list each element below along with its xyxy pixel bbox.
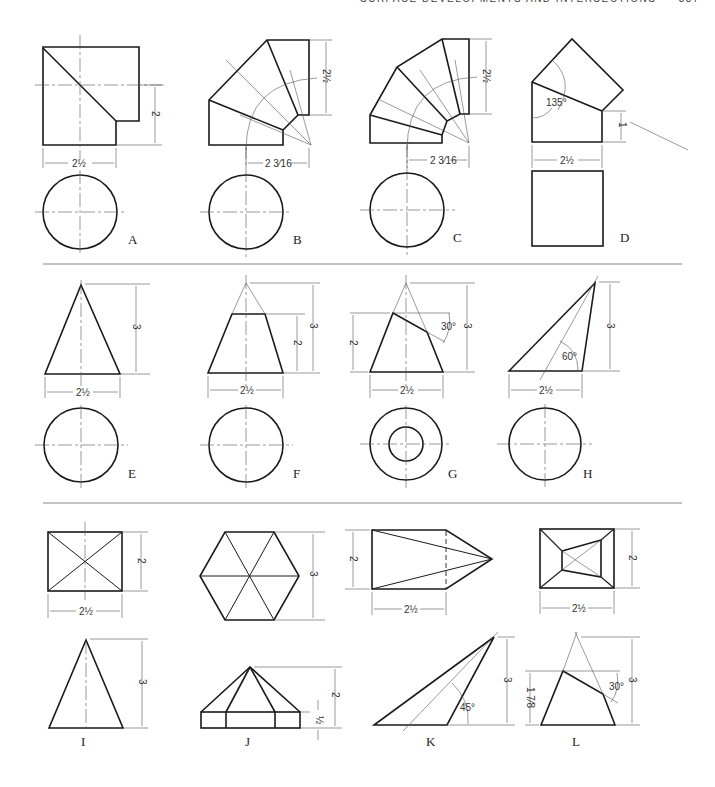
dim-d-height: 1 [617,122,628,128]
figure-label-e: E [128,466,136,481]
dim-a-height: 2 [150,111,161,117]
figure-i: 2 2½ 3 I [48,522,148,749]
dim-k-width: 2½ [404,604,419,615]
dim-l-angle: 30° [609,681,624,692]
dim-j-across: 3 [308,571,319,577]
figure-label-l: L [572,734,580,749]
figure-label-g: G [448,466,457,481]
dim-a-width: 2½ [72,158,87,169]
figure-label-h: H [583,466,592,481]
figure-g: 2 3 30° 2½ G [348,275,475,490]
figure-label-j: J [245,734,250,749]
drawing-sheet: 2 2½ A 2½ 2 3⁄16 B [0,0,715,787]
dim-f-width: 2½ [240,385,255,396]
dim-i-height: 3 [137,679,148,685]
dim-k-depth: 2 [348,556,359,562]
figure-c: 2½ 2 3⁄16 C [360,39,492,258]
dim-g-cone-height: 3 [462,323,473,329]
dim-d-width: 2½ [560,155,575,166]
figure-label-d: D [620,230,629,245]
dim-h-height: 3 [605,323,616,329]
figure-label-a: A [128,232,138,247]
dim-l-width: 2½ [572,603,587,614]
dim-f-cone-height: 3 [308,323,319,329]
figure-h: 3 60° 2½ H [497,276,620,490]
figure-a: 2 2½ A [35,35,165,255]
figure-label-c: C [453,230,462,245]
figure-e: 3 2½ E [35,280,150,490]
dim-i-depth: 2 [136,558,147,564]
dim-d-angle: 135° [546,97,567,108]
dim-e-height: 3 [131,324,142,330]
figure-k: 2 2½ 3 45° K [345,530,515,749]
figure-j: 3 2 ½ J [200,532,342,749]
figure-label-f: F [293,466,300,481]
figure-f: 2 3 2½ F [200,275,320,490]
dim-k-height: 3 [502,677,513,683]
dim-g-angle: 30° [441,321,456,332]
dim-l-depth: 2 [627,555,638,561]
figure-label-i: I [81,734,85,749]
figure-d: 135° 1 2½ D [532,39,688,246]
figure-label-k: K [426,734,436,749]
dim-j-base: ½ [314,716,325,725]
figure-b: 2½ 2 3⁄16 B [200,40,332,260]
dim-c-width: 2 3⁄16 [430,155,457,166]
dim-j-height: 2 [330,692,341,698]
dim-b-height: 2½ [321,69,332,84]
dim-l-height: 3 [627,677,638,683]
figure-label-b: B [293,232,302,247]
dim-i-width: 2½ [79,606,94,617]
dim-f-frustum-height: 2 [292,340,303,346]
dim-c-height: 2½ [481,69,492,84]
dim-k-angle: 45° [460,702,475,713]
dim-g-height: 2 [348,340,359,346]
dim-e-width: 2½ [76,387,91,398]
dim-b-width: 2 3⁄16 [265,158,292,169]
dim-g-width: 2½ [400,385,415,396]
dim-h-width: 2½ [539,385,554,396]
dim-h-angle: 60° [562,351,577,362]
dim-l-cut-height: 1 7⁄8 [525,687,536,709]
figure-l: 2 2½ 3 1 7⁄8 30° L [525,529,640,749]
